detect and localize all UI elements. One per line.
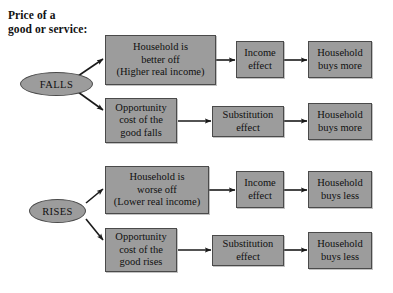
page-title: Price of a good or service: <box>8 9 87 36</box>
node-falls-income-effect[interactable]: Income effect <box>236 41 284 78</box>
node-falls-buys-more-1[interactable]: Household buys more <box>308 41 372 78</box>
arrow-rises-to-worse-off <box>86 189 103 203</box>
node-falls-better-off[interactable]: Household is better off (Higher real inc… <box>105 35 216 85</box>
trigger-rises[interactable]: RISES <box>29 199 86 223</box>
arrow-falls-to-opp-cost <box>78 92 103 110</box>
arrow-falls-to-better-off <box>78 59 103 76</box>
node-rises-buys-less-2[interactable]: Household buys less <box>308 232 372 269</box>
node-falls-buys-more-2[interactable]: Household buys more <box>308 103 372 140</box>
node-rises-substitution-effect[interactable]: Substitution effect <box>212 235 284 266</box>
trigger-falls[interactable]: FALLS <box>20 72 93 96</box>
arrow-rises-to-opp-cost <box>86 219 103 240</box>
node-rises-income-effect[interactable]: Income effect <box>236 171 284 208</box>
node-rises-buys-less-1[interactable]: Household buys less <box>308 171 372 208</box>
diagram-canvas: Price of a good or service: FALLS RISES … <box>0 0 393 293</box>
node-falls-opp-cost[interactable]: Opportunity cost of the good falls <box>105 98 177 143</box>
node-falls-substitution-effect[interactable]: Substitution effect <box>212 106 284 137</box>
node-rises-opp-cost[interactable]: Opportunity cost of the good rises <box>105 228 177 272</box>
node-rises-worse-off[interactable]: Household is worse off (Lower real incom… <box>105 166 209 214</box>
